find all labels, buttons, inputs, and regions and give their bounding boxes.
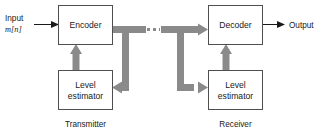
block-diagram: Encoder Decoder Level estimator Level es… xyxy=(0,0,321,137)
decoder-feedback-arrowhead xyxy=(220,44,232,54)
decoder-label: Decoder xyxy=(219,20,252,30)
receiver-label: Receiver xyxy=(219,120,252,129)
tx-level-estimator-block[interactable]: Level estimator xyxy=(59,71,113,110)
rx-level-estimator-label-line2: estimator xyxy=(218,91,253,101)
diagram-canvas: Encoder Decoder Level estimator Level es… xyxy=(0,0,321,137)
channel-right-segment xyxy=(161,30,202,88)
input-arrow xyxy=(34,21,59,28)
transmitter-label: Transmitter xyxy=(65,120,106,129)
encoder-label: Encoder xyxy=(69,20,101,30)
tx-level-estimator-feedback-arrowhead xyxy=(112,82,122,94)
encoder-block[interactable]: Encoder xyxy=(59,6,113,45)
encoder-output-channel-path xyxy=(112,30,126,88)
output-arrow xyxy=(262,21,285,28)
rx-level-estimator-label-line1: Level xyxy=(225,80,246,90)
rx-level-estimator-block[interactable]: Level estimator xyxy=(209,71,263,110)
decoder-input-arrowhead xyxy=(198,24,208,36)
tx-level-estimator-label-line2: estimator xyxy=(68,91,103,101)
encoder-feedback-arrowhead xyxy=(70,44,82,54)
tx-level-estimator-label-line1: Level xyxy=(75,80,96,90)
output-label: Output xyxy=(289,21,314,30)
input-label-line1: Input xyxy=(5,14,24,23)
rx-level-estimator-input-arrowhead xyxy=(198,82,208,94)
input-label-line2: m[n] xyxy=(5,25,22,34)
decoder-block[interactable]: Decoder xyxy=(209,6,263,45)
